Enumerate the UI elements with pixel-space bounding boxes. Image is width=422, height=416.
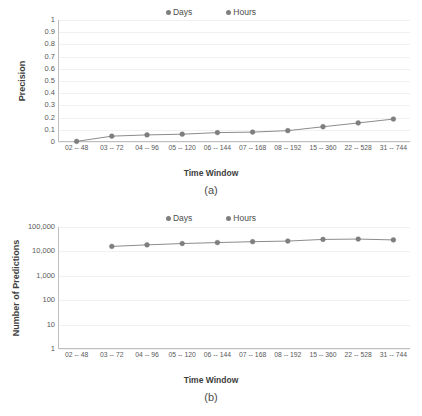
y-tick-label: 0.9	[45, 28, 55, 36]
x-tick-label: 15 -- 360	[309, 352, 336, 359]
data-point-marker	[109, 244, 114, 249]
legend-a: Days Hours	[0, 4, 422, 20]
data-point-marker	[285, 239, 290, 244]
y-tick-label: 10,000	[32, 248, 55, 256]
y-axis-title-a: Precision	[17, 61, 27, 102]
x-tick-label: 15 -- 360	[309, 145, 336, 152]
data-point-marker	[285, 128, 290, 133]
legend-entry-hours: Hours	[226, 8, 256, 17]
data-point-marker	[356, 121, 361, 126]
y-axis-title-b: Number of Predictions	[11, 240, 21, 337]
x-tick-label: 07 -- 168	[239, 352, 266, 359]
data-point-marker	[109, 134, 114, 139]
x-tick-label: 07 -- 168	[239, 145, 266, 152]
legend-entry-hours: Hours	[226, 214, 256, 223]
y-tick-label: 1	[51, 345, 55, 353]
x-tick-label: 04 -- 96	[135, 145, 158, 152]
x-tick-label: 22 -- 528	[345, 352, 372, 359]
x-tick-label: 05 -- 120	[169, 145, 196, 152]
legend-label-days: Days	[173, 8, 192, 17]
data-point-marker	[391, 238, 396, 243]
x-tick-label: 06 -- 144	[204, 352, 231, 359]
y-tick-label: 1	[51, 16, 55, 24]
series-layer	[59, 20, 411, 142]
plot-area-a: 00.10.20.30.40.50.60.70.80.9102 -- 4803 …	[58, 20, 410, 142]
y-tick-label: 0.1	[45, 126, 55, 134]
data-point-marker	[145, 242, 150, 247]
x-tick-label: 08 -- 192	[274, 145, 301, 152]
x-axis-title-b: Time Window	[0, 375, 422, 385]
legend-marker-dot-icon	[166, 216, 171, 221]
data-point-marker	[250, 130, 255, 135]
data-point-marker	[74, 139, 79, 144]
y-tick-label: 100	[42, 296, 55, 304]
y-tick-label: 0.7	[45, 53, 55, 61]
figure-caption-b: (b)	[0, 391, 422, 403]
series-layer	[59, 227, 411, 349]
x-tick-label: 08 -- 192	[274, 352, 301, 359]
x-tick-label: 04 -- 96	[135, 352, 158, 359]
x-tick-label: 03 -- 72	[100, 352, 123, 359]
gridline	[59, 349, 410, 350]
plot-area-b: 1101001,00010,000100,00002 -- 4803 -- 72…	[58, 227, 410, 349]
legend-label-hours: Hours	[233, 8, 256, 17]
x-tick-label: 31 -- 744	[380, 145, 407, 152]
data-point-marker	[356, 237, 361, 242]
y-tick-label: 10	[47, 321, 55, 329]
plot-frame-a: 00.10.20.30.40.50.60.70.80.9102 -- 4803 …	[58, 20, 410, 142]
legend-marker-dot-icon	[166, 10, 171, 15]
data-point-marker	[215, 240, 220, 245]
legend-marker-dot-icon	[226, 10, 231, 15]
data-point-marker	[321, 124, 326, 129]
figure-a: Days Hours Precision 00.10.20.30.40.50.6…	[0, 0, 422, 205]
x-axis-title-a: Time Window	[0, 168, 422, 178]
y-tick-label: 1,000	[36, 272, 55, 280]
data-point-marker	[180, 132, 185, 137]
x-tick-label: 06 -- 144	[204, 145, 231, 152]
y-tick-label: 0.3	[45, 102, 55, 110]
legend-b: Days Hours	[0, 210, 422, 226]
data-point-marker	[180, 241, 185, 246]
legend-label-days: Days	[173, 214, 192, 223]
figure-b: Days Hours Number of Predictions 1101001…	[0, 205, 422, 416]
data-point-marker	[391, 117, 396, 122]
legend-label-hours: Hours	[233, 214, 256, 223]
x-tick-label: 02 -- 48	[65, 145, 88, 152]
legend-entry-days: Days	[166, 214, 192, 223]
y-tick-label: 0	[51, 138, 55, 146]
y-tick-label: 0.5	[45, 77, 55, 85]
data-point-marker	[145, 133, 150, 138]
data-point-marker	[250, 239, 255, 244]
x-tick-label: 02 -- 48	[65, 352, 88, 359]
x-tick-label: 31 -- 744	[380, 352, 407, 359]
figure-caption-a: (a)	[0, 184, 422, 196]
data-point-marker	[321, 237, 326, 242]
y-tick-label: 0.2	[45, 114, 55, 122]
x-tick-label: 05 -- 120	[169, 352, 196, 359]
y-tick-label: 0.6	[45, 65, 55, 73]
gridline	[59, 142, 410, 143]
data-point-marker	[215, 130, 220, 135]
x-tick-label: 03 -- 72	[100, 145, 123, 152]
plot-frame-b: 1101001,00010,000100,00002 -- 4803 -- 72…	[58, 227, 410, 349]
legend-marker-dot-icon	[226, 216, 231, 221]
y-tick-label: 100,000	[28, 223, 55, 231]
legend-entry-days: Days	[166, 8, 192, 17]
y-tick-label: 0.4	[45, 89, 55, 97]
y-tick-label: 0.8	[45, 41, 55, 49]
x-tick-label: 22 -- 528	[345, 145, 372, 152]
series-line	[77, 119, 394, 141]
